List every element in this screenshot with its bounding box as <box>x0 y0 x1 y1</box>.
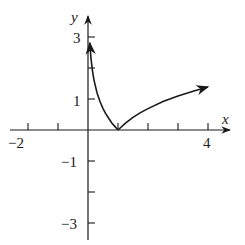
y-tick-label-neg1: −1 <box>61 154 77 170</box>
x-axis-label: x <box>221 111 229 127</box>
curve-left-branch <box>90 43 118 130</box>
y-tick-label-3: 3 <box>73 30 81 46</box>
y-axis-label: y <box>69 9 78 25</box>
x-tick-label-neg2: −2 <box>8 135 24 151</box>
curve-right-branch <box>118 87 208 130</box>
y-tick-label-1: 1 <box>73 93 81 109</box>
x-tick-label-4: 4 <box>203 135 211 151</box>
function-graph: x y −2 4 3 1 −1 −3 <box>0 0 245 245</box>
y-tick-label-neg3: −3 <box>61 216 77 232</box>
